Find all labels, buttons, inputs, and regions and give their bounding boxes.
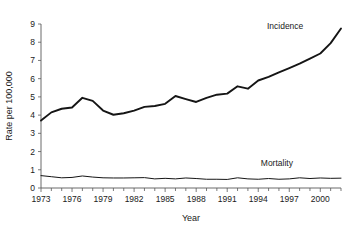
- x-tick-label: 1994: [249, 194, 268, 204]
- series-label-incidence: Incidence: [267, 21, 304, 31]
- chart-background: [0, 0, 354, 227]
- x-tick-label: 1982: [125, 194, 144, 204]
- y-axis-title: Rate per 100,000: [4, 71, 14, 141]
- chart-container: 0123456789 19731976197919821985198819911…: [0, 0, 354, 227]
- y-tick-label: 7: [30, 55, 35, 65]
- series-label-mortality: Mortality: [261, 158, 294, 168]
- y-tick-label: 4: [30, 110, 35, 120]
- y-tick-label: 3: [30, 128, 35, 138]
- y-tick-label: 6: [30, 74, 35, 84]
- x-tick-label: 2000: [311, 194, 330, 204]
- x-tick-label: 1979: [94, 194, 113, 204]
- y-tick-label: 1: [30, 165, 35, 175]
- y-tick-label: 9: [30, 19, 35, 29]
- x-tick-label: 1976: [63, 194, 82, 204]
- y-tick-label: 0: [30, 183, 35, 193]
- y-tick-label: 2: [30, 147, 35, 157]
- x-tick-label: 1985: [156, 194, 175, 204]
- x-axis-title: Year: [182, 213, 200, 223]
- x-tick-label: 1997: [280, 194, 299, 204]
- x-tick-label: 1973: [32, 194, 51, 204]
- x-tick-label: 1991: [218, 194, 237, 204]
- line-chart: 0123456789 19731976197919821985198819911…: [0, 0, 354, 227]
- y-tick-label: 8: [30, 37, 35, 47]
- y-tick-label: 5: [30, 92, 35, 102]
- x-tick-label: 1988: [187, 194, 206, 204]
